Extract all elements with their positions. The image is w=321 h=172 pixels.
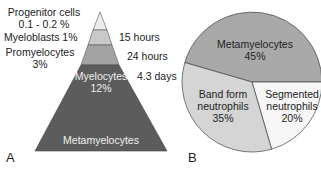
label-metamyelocytes-pyramid: Metamyelocytes [56,134,146,146]
pie-label-band-line2: neutrophils [190,100,256,112]
label-time-15-hours: 15 hours [119,31,160,43]
panel-letter-a: A [6,152,15,164]
label-promyelocytes-pct: 3% [2,58,78,70]
pie-label-segmented-line2: neutrophils [259,100,321,112]
pie-label-band-pct: 35% [190,112,256,124]
label-time-4-3-days: 4.3 days [137,70,177,82]
pie-label-band-line1: Band form [190,88,256,100]
label-progenitor: Progenitor cells 0.1 - 0.2 % [2,6,86,30]
label-myelocytes: Myelocytes 12% [70,70,132,94]
panel-letter-b: B [188,152,197,164]
label-time-24-hours: 24 hours [127,50,168,62]
label-promyelocytes: Promyelocytes 3% [2,46,78,70]
pie-label-segmented-line1: Segmented [259,88,321,100]
label-myelocytes-name: Myelocytes [70,70,132,82]
pie-label-metamyelocytes-name: Metamyelocytes [210,38,300,50]
pie-label-band-neutrophils: Band form neutrophils 35% [190,88,256,124]
pyramid-layer-progenitor [93,12,107,30]
label-progenitor-pct: 0.1 - 0.2 % [2,18,86,30]
label-myeloblasts: Myeloblasts 1% [4,31,78,43]
pie-label-metamyelocytes-pct: 45% [210,50,300,62]
label-myelocytes-pct: 12% [70,82,132,94]
label-progenitor-name: Progenitor cells [2,6,86,18]
pyramid-layer-promyelocytes [81,45,119,65]
pie-label-metamyelocytes: Metamyelocytes 45% [210,38,300,62]
label-promyelocytes-name: Promyelocytes [2,46,78,58]
pie-label-segmented-pct: 20% [259,112,321,124]
pyramid-layer-myeloblasts [88,30,112,45]
pie-label-segmented-neutrophils: Segmented neutrophils 20% [259,88,321,124]
